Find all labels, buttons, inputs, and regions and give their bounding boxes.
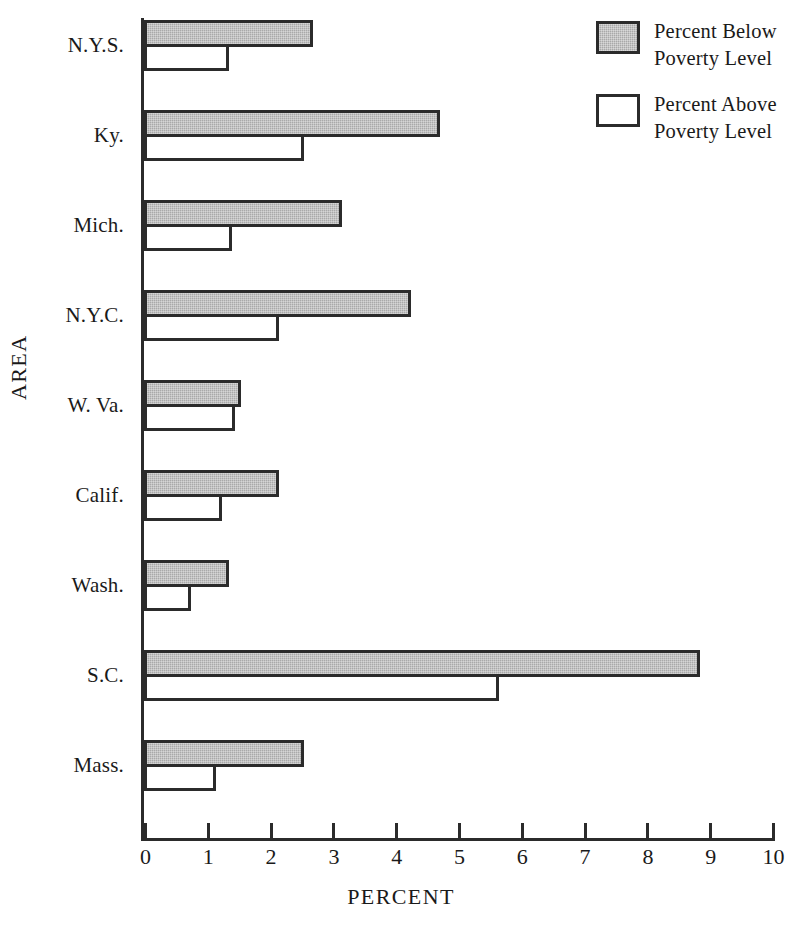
x-tick-label-3: 3 xyxy=(328,844,339,870)
x-tick-label-1: 1 xyxy=(203,844,214,870)
x-tick-label-4: 4 xyxy=(391,844,402,870)
bar-above-w-va xyxy=(144,404,235,431)
y-axis-label-w-va: W. Va. xyxy=(67,393,124,418)
x-tick-mark xyxy=(332,823,335,838)
bar-below-mass xyxy=(144,740,304,767)
x-tick-label-10: 10 xyxy=(763,844,785,870)
y-axis-category-labels: N.Y.S.Ky.Mich.N.Y.C.W. Va.Calif.Wash.S.C… xyxy=(0,0,134,926)
x-tick-label-0: 0 xyxy=(140,844,151,870)
x-tick-mark xyxy=(584,823,587,838)
y-axis-label-calif: Calif. xyxy=(76,483,124,508)
x-tick-mark xyxy=(709,823,712,838)
x-tick-label-2: 2 xyxy=(266,844,277,870)
bar-below-ky xyxy=(144,110,440,137)
y-axis-label-n-y-s: N.Y.S. xyxy=(68,33,124,58)
x-tick-label-6: 6 xyxy=(517,844,528,870)
bar-above-ky xyxy=(144,134,304,161)
y-axis-title: AREA xyxy=(6,335,32,401)
x-tick-label-7: 7 xyxy=(580,844,591,870)
y-axis-label-mass: Mass. xyxy=(73,753,124,778)
bar-above-mass xyxy=(144,764,216,791)
x-tick-mark xyxy=(270,823,273,838)
x-tick-label-9: 9 xyxy=(705,844,716,870)
y-axis-label-mich: Mich. xyxy=(73,213,124,238)
bar-below-mich xyxy=(144,200,342,227)
y-axis-label-ky: Ky. xyxy=(94,123,124,148)
y-axis-label-s-c: S.C. xyxy=(87,663,124,688)
y-axis-label-n-y-c: N.Y.C. xyxy=(65,303,124,328)
x-tick-mark xyxy=(144,823,147,838)
x-tick-mark xyxy=(458,823,461,838)
bar-above-n-y-c xyxy=(144,314,279,341)
x-tick-mark xyxy=(646,823,649,838)
bar-below-n-y-s xyxy=(144,20,313,47)
x-tick-mark xyxy=(207,823,210,838)
bar-above-calif xyxy=(144,494,222,521)
bar-above-n-y-s xyxy=(144,44,229,71)
x-tick-label-8: 8 xyxy=(642,844,653,870)
x-tick-label-5: 5 xyxy=(454,844,465,870)
bar-below-wash xyxy=(144,560,229,587)
bar-below-s-c xyxy=(144,650,700,677)
bar-above-mich xyxy=(144,224,232,251)
y-axis-label-wash: Wash. xyxy=(72,573,124,598)
x-tick-mark xyxy=(772,823,775,838)
bar-below-calif xyxy=(144,470,279,497)
x-axis-title: PERCENT xyxy=(0,884,802,910)
bar-below-n-y-c xyxy=(144,290,411,317)
plot-area xyxy=(144,18,772,838)
bar-above-wash xyxy=(144,584,191,611)
bar-below-w-va xyxy=(144,380,241,407)
x-tick-mark xyxy=(395,823,398,838)
bar-chart-figure: Percent Below Poverty Level Percent Abov… xyxy=(0,0,802,926)
x-tick-mark xyxy=(521,823,524,838)
bar-above-s-c xyxy=(144,674,499,701)
